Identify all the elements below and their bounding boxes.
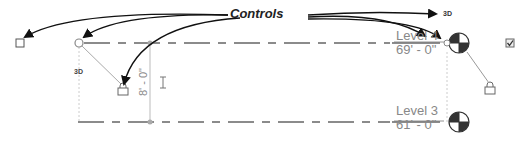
level-3-name[interactable]: Level 3 [396, 103, 438, 118]
controls-callout-label: Controls [230, 6, 283, 21]
callout-arrows [25, 13, 440, 84]
level-4-head-icon[interactable] [444, 33, 469, 53]
lock-icon-left[interactable] [118, 83, 128, 95]
3d-toggle-label-left[interactable]: 3D [74, 68, 83, 75]
3d-toggle-label-top[interactable]: 3D [443, 10, 452, 17]
elbow-line-right [467, 52, 489, 83]
level-4-name[interactable]: Level 4 [396, 28, 438, 43]
hide-bubble-checkbox-left[interactable] [16, 39, 24, 47]
lock-icon-right[interactable] [485, 82, 495, 94]
level-4-elevation[interactable]: 69' - 0" [396, 42, 436, 57]
elbow-line [82, 46, 121, 84]
dimension-endpoint-bottom[interactable] [148, 120, 153, 125]
drag-handle-circle[interactable] [75, 39, 83, 47]
temporary-dimension-value[interactable]: 8' - 0" [137, 68, 149, 96]
level-3-head-icon[interactable] [449, 112, 469, 132]
show-bubble-checkbox-right[interactable] [506, 39, 514, 47]
text-cursor-icon [160, 77, 166, 88]
level-3-elevation[interactable]: 61' - 0" [396, 117, 436, 132]
